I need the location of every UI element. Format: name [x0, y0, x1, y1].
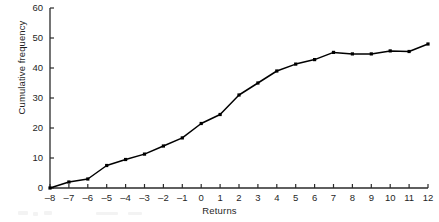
data-point-marker	[370, 52, 373, 55]
data-point-marker	[237, 93, 240, 96]
scan-artifact	[44, 211, 52, 215]
data-point-marker	[389, 49, 392, 52]
data-point-marker	[105, 164, 108, 167]
axis-lines	[50, 8, 428, 188]
data-point-marker	[275, 69, 278, 72]
data-point-marker	[48, 186, 51, 189]
data-point-marker	[408, 50, 411, 53]
data-point-marker	[332, 51, 335, 54]
data-point-marker	[124, 158, 127, 161]
data-point-marker	[181, 136, 184, 139]
scan-artifact	[18, 211, 28, 215]
data-point-marker	[86, 177, 89, 180]
data-point-marker	[294, 63, 297, 66]
data-point-marker	[313, 58, 316, 61]
data-point-marker	[162, 144, 165, 147]
scan-artifact	[33, 212, 38, 216]
data-point-marker	[67, 180, 70, 183]
cumulative-frequency-chart: Cumulative frequency Returns 01020304050…	[0, 0, 439, 222]
plot-area	[0, 0, 439, 222]
x-axis-ticks	[50, 184, 428, 188]
data-point-marker	[256, 81, 259, 84]
scan-artifact	[128, 212, 142, 215]
scan-artifact	[96, 212, 118, 215]
data-point-marker	[351, 52, 354, 55]
data-point-marker	[200, 122, 203, 125]
data-point-markers	[48, 42, 429, 189]
data-point-marker	[426, 42, 429, 45]
data-point-marker	[143, 153, 146, 156]
data-point-marker	[219, 113, 222, 116]
